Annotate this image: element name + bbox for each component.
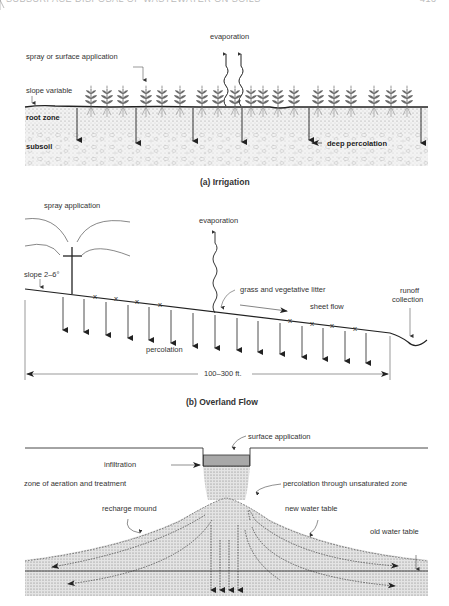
svg-text:x: x: [114, 294, 118, 303]
panel-b-overland-flow: x x x x x x x x: [25, 218, 427, 380]
svg-text:x: x: [158, 300, 162, 309]
label-root-zone: root zone: [26, 114, 60, 122]
label-percolation: percolation: [146, 346, 183, 354]
evaporation-arrow-1: [224, 54, 228, 106]
label-percolation-unsaturated: percolation through unsaturated zone: [283, 480, 407, 488]
svg-text:x: x: [135, 297, 139, 306]
spray-arcs: [25, 218, 130, 256]
label-old-water-table: old water table: [370, 528, 419, 536]
percolation-column: [203, 466, 250, 500]
label-spray-application: spray application: [44, 202, 100, 210]
svg-text:x: x: [310, 319, 314, 328]
caption-overland-flow: (b) Overland Flow: [186, 397, 258, 407]
slope-surface: [25, 289, 427, 346]
recharge-mound: [25, 498, 428, 596]
label-grass-vegetative-litter: grass and vegetative litter: [240, 286, 325, 294]
vegetation-x-marks: x x x x x x x x: [93, 292, 357, 333]
evaporation-arrow-b: [213, 232, 217, 313]
label-evaporation-a: evaporation: [210, 33, 249, 41]
label-spray-surface-application: spray or surface application: [26, 53, 118, 61]
label-evaporation-b: evaporation: [199, 217, 238, 225]
label-distance: 100–300 ft.: [204, 370, 242, 378]
label-subsoil: subsoil: [26, 143, 52, 151]
label-recharge-mound: recharge mound: [102, 505, 157, 513]
label-surface-application: surface application: [248, 433, 311, 441]
svg-text:x: x: [93, 292, 97, 301]
label-slope-variable: slope variable: [26, 87, 72, 95]
label-zone-aeration-treatment: zone of aeration and treatment: [24, 480, 126, 488]
svg-text:x: x: [330, 321, 334, 330]
label-slope: slope 2–6°: [24, 271, 60, 279]
caption-irrigation: (a) Irrigation: [200, 177, 250, 187]
label-sheet-flow: sheet flow: [310, 303, 344, 311]
application-basin: [204, 455, 250, 466]
root-zone-layer: [25, 107, 428, 135]
label-infiltration: infiltration: [104, 461, 136, 469]
panel-c-rapid-infiltration: [25, 436, 428, 596]
label-deep-percolation: deep percolation: [327, 140, 387, 148]
label-runoff: runoff: [400, 287, 419, 295]
svg-text:x: x: [288, 316, 292, 325]
label-collection: collection: [392, 296, 423, 304]
svg-text:x: x: [353, 324, 357, 333]
label-new-water-table: new water table: [285, 505, 338, 513]
evaporation-arrow-2: [239, 54, 243, 106]
